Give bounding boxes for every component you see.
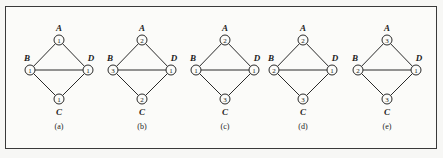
node-name-label: A [138, 23, 145, 33]
node-name-label: D [415, 53, 423, 63]
node-value: 1 [330, 67, 334, 75]
node-value: 1 [28, 67, 32, 75]
edge-c-d [225, 70, 254, 99]
edge-a-b [113, 40, 142, 70]
edge-c-d [59, 70, 88, 99]
edge-c-d [142, 70, 171, 99]
node-name-label: C [139, 107, 146, 117]
node-name-label: B [189, 53, 196, 63]
node-value: 3 [223, 96, 227, 104]
node-value: 2 [140, 96, 144, 104]
edge-b-c [358, 70, 387, 99]
edge-a-b [358, 40, 387, 70]
node-name-label: D [170, 53, 178, 63]
panel-caption: (a) [55, 122, 64, 131]
node-value: 3 [111, 67, 115, 75]
edge-b-c [196, 70, 225, 99]
node-name-label: B [351, 53, 358, 63]
edge-b-c [30, 70, 59, 99]
node-name-label: A [55, 23, 62, 33]
edge-a-d [142, 40, 171, 70]
panel-caption: (b) [137, 122, 147, 131]
edge-c-d [303, 70, 332, 99]
node-name-label: C [300, 107, 307, 117]
node-value: 2 [272, 67, 276, 75]
node-name-label: B [23, 53, 30, 63]
node-name-label: A [299, 23, 306, 33]
node-name-label: B [267, 53, 274, 63]
node-name-label: A [383, 23, 390, 33]
panel-a: 1A1B1C1D(a) [23, 23, 95, 131]
node-value: 3 [385, 37, 389, 45]
node-name-label: A [221, 23, 228, 33]
edge-a-b [274, 40, 303, 70]
edge-b-c [113, 70, 142, 99]
node-name-label: C [56, 107, 63, 117]
node-value: 1 [57, 37, 61, 45]
edge-a-d [225, 40, 254, 70]
edge-c-d [387, 70, 416, 99]
edge-a-d [303, 40, 332, 70]
edge-a-d [387, 40, 416, 70]
node-name-label: C [384, 107, 391, 117]
node-value: 1 [86, 67, 90, 75]
node-value: 1 [414, 67, 418, 75]
node-value: 2 [301, 37, 305, 45]
edge-a-b [196, 40, 225, 70]
panel-caption: (c) [221, 122, 230, 131]
node-name-label: D [253, 53, 261, 63]
panel-caption: (e) [383, 122, 392, 131]
node-value: 2 [356, 67, 360, 75]
node-name-label: C [222, 107, 229, 117]
edge-a-d [59, 40, 88, 70]
node-name-label: B [106, 53, 113, 63]
node-name-label: D [87, 53, 95, 63]
panel-c: 2A1B3C1D(c) [189, 23, 261, 131]
node-value: 2 [140, 37, 144, 45]
edge-a-b [30, 40, 59, 70]
node-value: 3 [385, 96, 389, 104]
edge-b-c [274, 70, 303, 99]
panel-d: 2A2B3C1D(d) [267, 23, 339, 131]
node-value: 1 [169, 67, 173, 75]
panel-b: 2A3B2C1D(b) [106, 23, 178, 131]
node-value: 2 [223, 37, 227, 45]
panel-caption: (d) [298, 122, 308, 131]
node-value: 3 [301, 96, 305, 104]
panel-e: 3A2B3C1D(e) [351, 23, 423, 131]
graph-panels: 1A1B1C1D(a)2A3B2C1D(b)2A1B3C1D(c)2A2B3C1… [0, 0, 443, 158]
node-name-label: D [331, 53, 339, 63]
node-value: 1 [57, 96, 61, 104]
node-value: 1 [252, 67, 256, 75]
node-value: 1 [194, 67, 198, 75]
